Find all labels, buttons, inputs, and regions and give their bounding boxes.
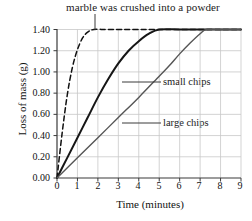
axes [57,29,241,178]
series-line-large-chips [57,29,241,178]
gridlines [57,30,241,179]
axis-ticks [54,30,242,182]
series-line-small-chips [57,29,241,178]
chart-container: marble was crushed into a powder Loss of… [0,0,252,221]
data-series [57,29,241,178]
plot-area [0,0,252,221]
series-line-powder [57,29,241,178]
annotation-leader-lines [95,14,161,123]
